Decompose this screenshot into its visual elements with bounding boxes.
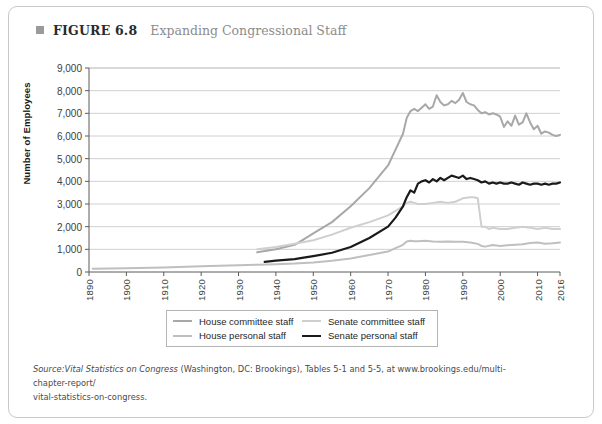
source-note: Source:Vital Statistics on Congress (Was… (33, 362, 533, 404)
x-tick-label: 1960 (346, 279, 357, 301)
y-tick-label: 7,000 (36, 108, 82, 119)
source-prefix: Source: (33, 364, 64, 374)
y-tick-label: 3,000 (36, 199, 82, 210)
x-tick-label: 2010 (533, 279, 544, 301)
y-tick-label: 0 (36, 267, 82, 278)
x-tick-label: 2016 (555, 279, 566, 301)
legend-item: Senate personal staff (302, 330, 431, 341)
legend-label: Senate committee staff (328, 316, 425, 327)
y-tick-label: 9,000 (36, 63, 82, 74)
line-chart: Number of Employees 01,0002,0003,0004,00… (0, 0, 602, 424)
legend-label: House committee staff (199, 316, 293, 327)
legend-item: Senate committee staff (302, 316, 431, 327)
line-swatch-icon (173, 335, 192, 337)
x-tick-label: 1950 (308, 279, 319, 301)
x-tick-label: 1920 (196, 279, 207, 301)
line-swatch-icon (302, 335, 321, 337)
y-tick-label: 4,000 (36, 176, 82, 187)
line-swatch-icon (302, 320, 321, 322)
chart-legend: House committee staffSenate committee st… (166, 310, 438, 347)
y-axis-ticks: 01,0002,0003,0004,0005,0006,0007,0008,00… (36, 0, 82, 424)
x-tick-label: 1890 (84, 279, 95, 301)
figure-page: FIGURE 6.8 Expanding Congressional Staff… (0, 0, 602, 424)
x-tick-label: 1990 (458, 279, 469, 301)
legend-item: House personal staff (173, 330, 302, 341)
source-line2: vital-statistics-on-congress. (33, 392, 147, 402)
y-tick-label: 5,000 (36, 153, 82, 164)
source-publication: Vital Statistics on Congress (64, 364, 177, 374)
line-swatch-icon (173, 320, 192, 322)
x-tick-label: 1980 (420, 279, 431, 301)
y-tick-label: 8,000 (36, 85, 82, 96)
y-axis-label: Number of Employees (21, 64, 32, 204)
legend-item: House committee staff (173, 316, 302, 327)
legend-label: House personal staff (199, 330, 286, 341)
x-tick-label: 1940 (271, 279, 282, 301)
plot-area (0, 0, 602, 424)
y-tick-label: 1,000 (36, 244, 82, 255)
x-tick-label: 1910 (159, 279, 170, 301)
x-tick-label: 2000 (495, 279, 506, 301)
x-tick-label: 1930 (234, 279, 245, 301)
x-tick-label: 1970 (383, 279, 394, 301)
x-tick-label: 1900 (121, 279, 132, 301)
y-tick-label: 6,000 (36, 131, 82, 142)
legend-label: Senate personal staff (328, 330, 418, 341)
series-line (265, 176, 560, 262)
y-tick-label: 2,000 (36, 221, 82, 232)
